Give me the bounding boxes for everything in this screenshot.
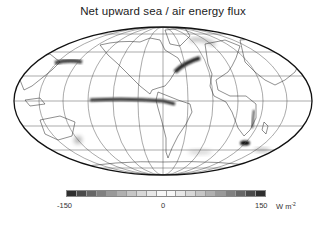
- colorbar-segment: [157, 191, 167, 196]
- graticule: [0, 27, 326, 175]
- colorbar-segment: [97, 191, 107, 196]
- colorbar-segment: [246, 191, 256, 196]
- colorbar-segment: [176, 191, 186, 196]
- colorbar-segment: [167, 191, 177, 196]
- colorbar-segment: [216, 191, 226, 196]
- colorbar-segment: [77, 191, 87, 196]
- colorbar-segment: [147, 191, 157, 196]
- flux-field: [0, 27, 326, 175]
- units-exponent: -2: [291, 201, 295, 207]
- colorbar-segment: [256, 191, 265, 196]
- colorbar-segment: [67, 191, 77, 196]
- colorbar-segment: [137, 191, 147, 196]
- colorbar-segment: [117, 191, 127, 196]
- colorbar-segment: [226, 191, 236, 196]
- colorbar-segment: [127, 191, 137, 196]
- colorbar-segment: [107, 191, 117, 196]
- colorbar-mid-label: 0: [161, 201, 165, 210]
- colorbar-min-label: -150: [57, 201, 72, 210]
- colorbar: [66, 190, 266, 197]
- colorbar-units: W m-2: [276, 201, 296, 211]
- colorbar-segment: [186, 191, 196, 196]
- units-base: W m: [276, 202, 291, 211]
- colorbar-max-label: 150: [255, 201, 268, 210]
- colorbar-segment: [196, 191, 206, 196]
- colorbar-segment: [206, 191, 216, 196]
- colorbar-segment: [236, 191, 246, 196]
- colorbar-segment: [87, 191, 97, 196]
